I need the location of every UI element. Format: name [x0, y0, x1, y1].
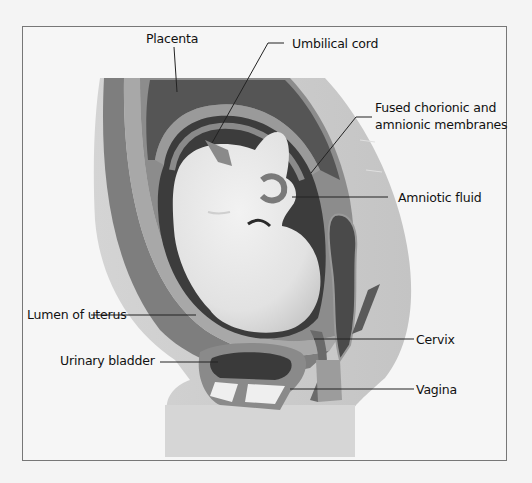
label-amniotic-fluid: Amniotic fluid: [398, 190, 481, 205]
label-urinary-bladder: Urinary bladder: [60, 353, 155, 368]
label-fused-membranes-line1: Fused chorionic and: [375, 100, 496, 115]
label-placenta: Placenta: [146, 31, 198, 46]
label-umbilical-cord: Umbilical cord: [292, 36, 378, 51]
pregnancy-anatomy-illustration: [0, 0, 532, 483]
label-cervix: Cervix: [416, 332, 455, 347]
label-lumen-of-uterus: Lumen of uterus: [27, 307, 127, 322]
label-vagina: Vagina: [416, 382, 457, 397]
label-fused-membranes-line2: amnionic membranes: [375, 117, 507, 132]
